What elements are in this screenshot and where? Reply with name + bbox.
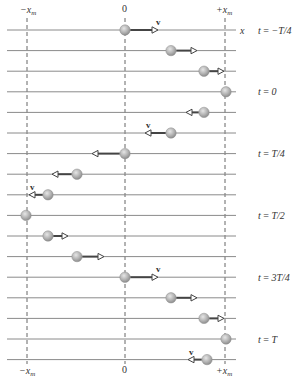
- velocity-arrow-head-icon: [186, 109, 192, 115]
- bottom-label-neg-xm: −xm: [19, 365, 35, 378]
- mass-ball: [199, 107, 209, 117]
- velocity-label: v: [156, 264, 161, 274]
- mass-ball: [72, 169, 82, 179]
- time-row: [7, 169, 236, 179]
- mass-ball: [166, 128, 176, 138]
- mass-ball: [120, 25, 130, 35]
- time-row: [7, 107, 236, 117]
- mass-ball: [166, 45, 176, 55]
- time-row: [7, 45, 236, 55]
- mass-ball: [199, 66, 209, 76]
- time-row: t = 0: [7, 86, 276, 97]
- time-label: t = 0: [258, 86, 276, 97]
- top-label-pos-xm: +xm: [216, 4, 232, 17]
- time-row: v: [7, 182, 236, 200]
- mass-ball: [166, 293, 176, 303]
- velocity-arrow-head-icon: [145, 130, 151, 136]
- velocity-label: v: [156, 17, 161, 27]
- time-label: t = T: [258, 334, 278, 345]
- mass-ball: [43, 231, 53, 241]
- time-label: t = T/2: [258, 210, 285, 221]
- time-row: [7, 231, 236, 241]
- velocity-label: v: [30, 182, 35, 192]
- mass-ball: [72, 251, 82, 261]
- bottom-label-zero: 0: [122, 364, 127, 375]
- time-row: [7, 66, 236, 76]
- time-label: t = T/4: [258, 148, 285, 159]
- time-row: v: [7, 347, 236, 365]
- oscillation-diagram: −xm 0 +xm −xm 0 +xm xvt = −T/4t = 0vt = …: [0, 0, 303, 381]
- time-row: [7, 313, 236, 323]
- mass-ball: [221, 87, 231, 97]
- velocity-arrow-head-icon: [188, 356, 194, 362]
- axis-name-x: x: [239, 25, 245, 36]
- reference-dashed-lines: [27, 18, 225, 364]
- mass-ball: [43, 190, 53, 200]
- bottom-label-pos-xm: +xm: [216, 365, 232, 378]
- time-row: t = T/4: [7, 148, 285, 159]
- mass-ball: [202, 354, 212, 364]
- mass-ball: [199, 313, 209, 323]
- time-row: [7, 293, 236, 303]
- velocity-label: v: [146, 120, 151, 130]
- time-row: [7, 251, 236, 261]
- time-label: t = −T/4: [258, 25, 292, 36]
- velocity-arrow-head-icon: [218, 68, 224, 74]
- velocity-arrow-head-icon: [52, 171, 58, 177]
- velocity-arrow-head-icon: [191, 295, 197, 301]
- velocity-label: v: [189, 347, 194, 357]
- time-row: t = T: [7, 334, 278, 345]
- time-row: xvt = −T/4: [7, 17, 292, 36]
- velocity-arrow-head-icon: [92, 150, 98, 156]
- velocity-arrow-head-icon: [62, 233, 68, 239]
- velocity-arrow-head-icon: [218, 315, 224, 321]
- velocity-arrow-head-icon: [98, 253, 104, 259]
- time-row: vt = 3T/4: [7, 264, 290, 283]
- velocity-arrow-head-icon: [152, 27, 158, 33]
- time-row: t = T/2: [7, 210, 285, 221]
- velocity-arrow-head-icon: [191, 47, 197, 53]
- top-label-neg-xm: −xm: [20, 4, 36, 17]
- velocity-arrow-head-icon: [29, 192, 35, 198]
- velocity-arrow-head-icon: [152, 274, 158, 280]
- mass-ball: [120, 272, 130, 282]
- mass-ball: [221, 334, 231, 344]
- time-rows: xvt = −T/4t = 0vt = T/4vt = T/2vt = 3T/4…: [7, 17, 292, 365]
- time-label: t = 3T/4: [258, 272, 290, 283]
- mass-ball: [21, 210, 31, 220]
- time-row: v: [7, 120, 236, 138]
- mass-ball: [120, 148, 130, 158]
- top-label-zero: 0: [122, 3, 127, 14]
